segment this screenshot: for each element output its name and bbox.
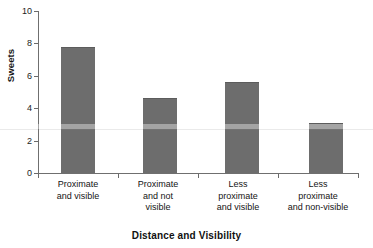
- x-category-label-2-line-2: and visible: [198, 202, 278, 214]
- y-tick-label-10: 10: [15, 7, 32, 16]
- x-tick-mark-0: [38, 174, 39, 178]
- x-category-label-3: Less proximate and non-visible: [273, 179, 363, 214]
- x-category-label-3-line-2: and non-visible: [273, 202, 363, 214]
- bar-chart: Sweets 0 2 4 6 8 10 Proximate and visibl…: [0, 0, 373, 248]
- x-category-label-0-line-1: and visible: [38, 191, 118, 203]
- bar-proximate-and-not-visible: [143, 98, 177, 173]
- x-category-label-1-line-1: and not: [118, 191, 198, 203]
- y-axis-title: Sweets: [5, 36, 16, 96]
- bar-less-proximate-and-non-visible: [309, 123, 343, 173]
- bar-proximate-and-visible: [61, 47, 95, 173]
- x-category-label-1-line-0: Proximate: [118, 179, 198, 191]
- x-category-label-0: Proximate and visible: [38, 179, 118, 202]
- x-tick-mark-2: [198, 174, 199, 178]
- y-tick-label-4: 4: [18, 104, 32, 113]
- x-category-label-3-line-1: proximate: [273, 191, 363, 203]
- x-tick-mark-4: [358, 174, 359, 178]
- x-category-label-1-line-2: visible: [118, 202, 198, 214]
- x-category-label-0-line-0: Proximate: [38, 179, 118, 191]
- y-tick-label-2: 2: [18, 136, 32, 145]
- x-category-label-3-line-0: Less: [273, 179, 363, 191]
- y-axis-line: [38, 11, 39, 174]
- x-tick-mark-3: [278, 174, 279, 178]
- y-tick-label-6: 6: [18, 71, 32, 80]
- y-tick-label-8: 8: [18, 39, 32, 48]
- x-category-label-2: Less proximate and visible: [198, 179, 278, 214]
- x-axis-title: Distance and Visibility: [0, 230, 373, 241]
- x-category-label-2-line-0: Less: [198, 179, 278, 191]
- bar-less-proximate-and-visible: [225, 82, 259, 173]
- y-tick-label-0: 0: [18, 169, 32, 178]
- x-category-label-2-line-1: proximate: [198, 191, 278, 203]
- x-tick-mark-1: [118, 174, 119, 178]
- x-category-label-1: Proximate and not visible: [118, 179, 198, 214]
